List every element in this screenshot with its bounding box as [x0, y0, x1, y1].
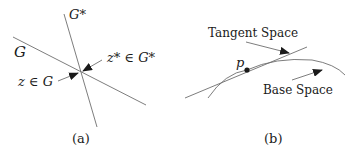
line-g: [13, 37, 146, 105]
line-g-star: [64, 14, 97, 127]
caption-b: (b): [264, 131, 282, 146]
label-z: z ∈ G: [17, 74, 53, 89]
panel-b: p Tangent Space Base Space (b): [185, 26, 345, 146]
label-base-space: Base Space: [263, 83, 333, 97]
label-z-star: z* ∈ G*: [106, 50, 156, 65]
panel-a: G G* z* ∈ G* z ∈ G (a): [13, 7, 156, 146]
arrow-tangent: [246, 42, 289, 53]
arrow-z-star: [83, 60, 102, 71]
arrow-z: [58, 73, 78, 81]
label-tangent-space: Tangent Space: [208, 26, 298, 40]
label-p: p: [236, 55, 245, 70]
arrow-base: [292, 70, 322, 80]
figure: G G* z* ∈ G* z ∈ G (a) p Tangent Space B…: [0, 0, 359, 155]
point-p: [244, 67, 249, 72]
caption-a: (a): [72, 131, 90, 146]
label-g-star: G*: [69, 7, 86, 22]
label-g: G: [14, 43, 26, 61]
